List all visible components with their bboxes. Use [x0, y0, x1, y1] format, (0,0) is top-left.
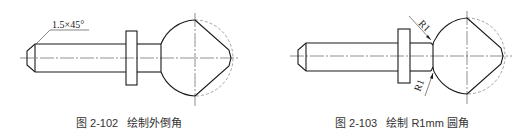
figure-caption-2-102: 图 2-102 绘制外倒角 [76, 114, 182, 130]
chamfer-dimension: 1.5×45° [52, 19, 84, 30]
figure-caption-2-103: 图 2-103 绘制 R1mm 圆角 [335, 114, 469, 130]
chamfer-leader [36, 30, 89, 44]
arrowhead-icon [430, 73, 433, 79]
fillet-dimension-top: R1 [417, 18, 433, 34]
figure-2-102-drawing: 1.5×45° [20, 13, 240, 106]
figure-2-103-drawing: R1 R1 [290, 11, 512, 104]
fillet-dimension-bottom: R1 [412, 78, 427, 93]
shaft-outline [298, 43, 398, 71]
